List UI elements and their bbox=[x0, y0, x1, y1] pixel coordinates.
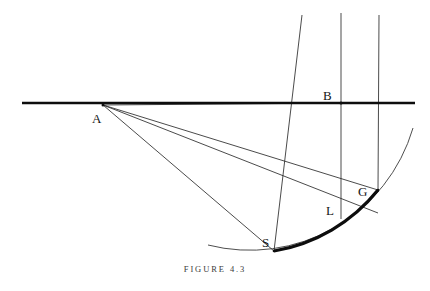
point-label-a: A bbox=[92, 111, 102, 126]
point-marker-b bbox=[340, 102, 343, 105]
point-label-l: L bbox=[326, 203, 334, 218]
figure-caption: FIGURE 4.3 bbox=[0, 264, 430, 274]
point-label-g: G bbox=[358, 184, 367, 199]
point-label-s: S bbox=[262, 235, 269, 250]
diagram-background bbox=[0, 0, 430, 291]
point-marker-a bbox=[102, 104, 105, 107]
figure-container: A B G L S FIGURE 4.3 bbox=[0, 0, 430, 291]
point-marker-g bbox=[377, 189, 380, 192]
point-marker-s bbox=[273, 250, 276, 253]
point-label-b: B bbox=[323, 88, 332, 103]
geometry-diagram: A B G L S bbox=[0, 0, 430, 291]
